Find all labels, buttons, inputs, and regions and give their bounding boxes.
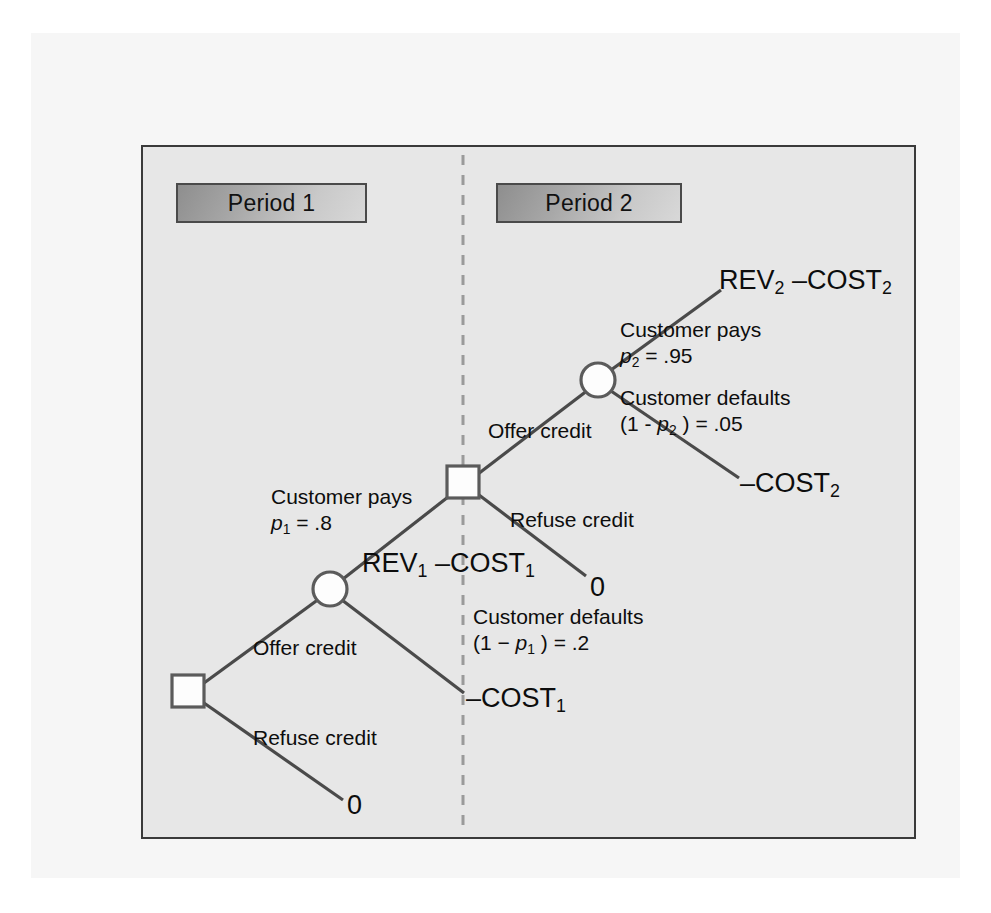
payoff-period2-refuse-zero: 0 bbox=[590, 572, 605, 604]
payoff-period1-defaults: –COST1 bbox=[466, 683, 566, 717]
payoff-p2d-cost: COST bbox=[755, 468, 830, 498]
label-p2-offer-credit: Offer credit bbox=[488, 419, 591, 444]
payoff-p2-dash: – bbox=[792, 265, 807, 295]
p1-var-value: = .8 bbox=[290, 511, 331, 534]
payoff-p2-cost-sub: 2 bbox=[882, 278, 892, 298]
node-root-decision-square[interactable] bbox=[172, 675, 204, 707]
p1-def-value: ) = .2 bbox=[535, 631, 589, 654]
label-p2-refuse-credit: Refuse credit bbox=[510, 508, 634, 533]
payoff-period1-pays: REV1 –COST1 bbox=[362, 548, 535, 582]
payoff-period2-defaults: –COST2 bbox=[740, 468, 840, 502]
payoff-p2-rev: REV bbox=[719, 265, 775, 295]
p2-def-prefix: (1 - bbox=[620, 412, 657, 435]
label-p2-probability-defaults: (1 - p2 ) = .05 bbox=[620, 412, 743, 438]
label-p1-customer-defaults: Customer defaults bbox=[473, 605, 643, 630]
scan-page-area: Period 1 Period 2 bbox=[31, 33, 960, 878]
payoff-p1-dash: – bbox=[435, 548, 450, 578]
branch-root-refuse-credit bbox=[204, 703, 343, 800]
label-p1-customer-pays: Customer pays bbox=[271, 485, 412, 510]
label-root-refuse-credit: Refuse credit bbox=[253, 726, 377, 751]
payoff-p1d-dash: – bbox=[466, 683, 481, 713]
payoff-p2d-cost-sub: 2 bbox=[830, 481, 840, 501]
payoff-p1d-cost-sub: 1 bbox=[556, 696, 566, 716]
p2-def-value: ) = .05 bbox=[677, 412, 743, 435]
node-period1-chance-circle[interactable] bbox=[313, 572, 347, 606]
label-p2-customer-pays: Customer pays bbox=[620, 318, 761, 343]
branch-p1-customer-defaults bbox=[342, 600, 464, 693]
p2-var-value: = .95 bbox=[639, 344, 692, 367]
payoff-p2d-dash: – bbox=[740, 468, 755, 498]
p2-def-var: p bbox=[657, 412, 669, 435]
payoff-period2-pays: REV2 –COST2 bbox=[719, 265, 892, 299]
p1-def-var-sub: 1 bbox=[527, 641, 535, 657]
payoff-p1-rev-sub: 1 bbox=[418, 561, 428, 581]
p2-var: p bbox=[620, 344, 632, 367]
p1-def-var: p bbox=[516, 631, 528, 654]
node-period2-decision-square[interactable] bbox=[447, 466, 479, 498]
p1-var: p bbox=[271, 511, 283, 534]
figure-root: Period 1 Period 2 bbox=[0, 0, 991, 913]
label-p1-probability-defaults: (1 − p1 ) = .2 bbox=[473, 631, 589, 657]
payoff-p1-rev: REV bbox=[362, 548, 418, 578]
label-p2-probability-pays: p2 = .95 bbox=[620, 344, 693, 370]
payoff-p2-rev-sub: 2 bbox=[775, 278, 785, 298]
p1-def-prefix: (1 − bbox=[473, 631, 516, 654]
label-p1-probability-pays: p1 = .8 bbox=[271, 511, 332, 537]
node-period2-chance-circle[interactable] bbox=[581, 363, 615, 397]
payoff-p1d-cost: COST bbox=[481, 683, 556, 713]
decision-tree-frame: Period 1 Period 2 bbox=[141, 145, 916, 839]
p2-def-var-sub: 2 bbox=[669, 422, 677, 438]
payoff-p2-cost: COST bbox=[807, 265, 882, 295]
payoff-period1-refuse-zero: 0 bbox=[347, 790, 362, 822]
payoff-p1-cost: COST bbox=[450, 548, 525, 578]
payoff-p1-cost-sub: 1 bbox=[525, 561, 535, 581]
label-root-offer-credit: Offer credit bbox=[253, 636, 356, 661]
label-p2-customer-defaults: Customer defaults bbox=[620, 386, 790, 411]
